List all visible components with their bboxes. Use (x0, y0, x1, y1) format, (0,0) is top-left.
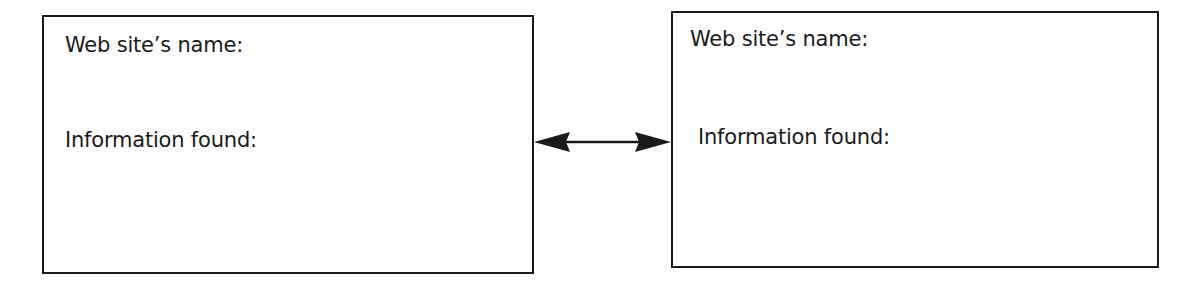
website-name-label: Web site’s name: (690, 27, 868, 51)
information-found-label: Information found: (698, 125, 890, 149)
website-box-left: Web site’s name: Information found: (42, 15, 534, 274)
double-arrow-icon (530, 130, 675, 154)
website-name-label: Web site’s name: (65, 33, 243, 57)
website-box-right: Web site’s name: Information found: (671, 11, 1159, 268)
information-found-label: Information found: (65, 128, 257, 152)
